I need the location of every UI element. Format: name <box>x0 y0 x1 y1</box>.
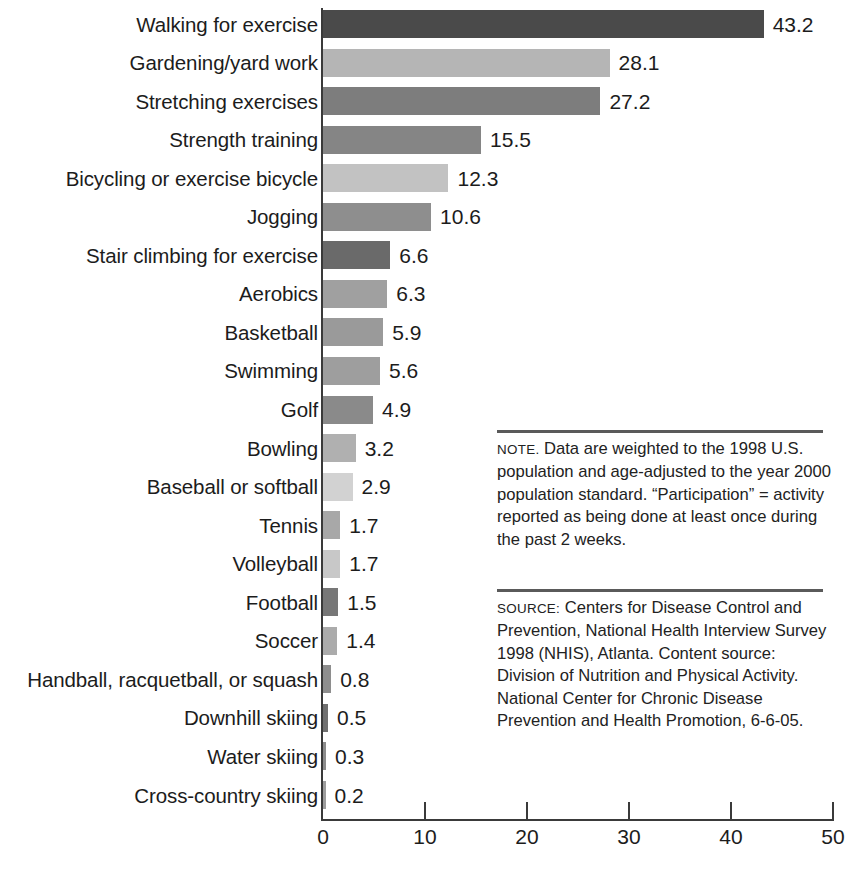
x-axis-tick-label: 10 <box>413 825 436 849</box>
category-label: Gardening/yard work <box>130 43 318 82</box>
bar <box>323 627 337 655</box>
category-label: Strength training <box>169 120 318 159</box>
x-axis-tick-label: 40 <box>719 825 742 849</box>
source-text: Centers for Disease Control and Preventi… <box>497 598 826 730</box>
bar <box>323 588 338 616</box>
x-axis-tick <box>628 802 630 820</box>
bar-value-label: 5.6 <box>389 351 418 390</box>
bar-row: Basketball5.9 <box>0 313 844 352</box>
category-label: Stretching exercises <box>135 82 318 121</box>
x-axis-tick-label: 0 <box>317 825 329 849</box>
bar-row: Stair climbing for exercise6.6 <box>0 236 844 275</box>
category-label: Downhill skiing <box>184 698 318 737</box>
bar-value-label: 28.1 <box>619 43 660 82</box>
category-label: Stair climbing for exercise <box>86 236 318 275</box>
category-label: Handball, racquetball, or squash <box>27 660 318 699</box>
source-top-rule <box>497 589 823 592</box>
bar-value-label: 2.9 <box>362 467 391 506</box>
bar-value-label: 5.9 <box>392 313 421 352</box>
bar-value-label: 15.5 <box>490 120 531 159</box>
category-label: Aerobics <box>239 274 318 313</box>
bar <box>323 742 326 770</box>
note-text: Data are weighted to the 1998 U.S. popul… <box>497 439 831 549</box>
x-axis-tick <box>424 802 426 820</box>
y-axis-line <box>321 8 323 820</box>
bar <box>323 318 383 346</box>
x-axis-tick <box>730 802 732 820</box>
bar <box>323 126 481 154</box>
bar-row: Jogging10.6 <box>0 197 844 236</box>
bar-row: Swimming5.6 <box>0 351 844 390</box>
bar <box>323 280 387 308</box>
bar-value-label: 0.5 <box>337 698 366 737</box>
category-label: Tennis <box>259 506 318 545</box>
bar-value-label: 6.3 <box>396 274 425 313</box>
note-block: NOTE. Data are weighted to the 1998 U.S.… <box>497 438 833 551</box>
bar-row: Bicycling or exercise bicycle12.3 <box>0 159 844 198</box>
bar-row: Walking for exercise43.2 <box>0 5 844 44</box>
bar <box>323 49 610 77</box>
bar-value-label: 1.7 <box>349 506 378 545</box>
bar <box>323 10 764 38</box>
bar-row: Gardening/yard work28.1 <box>0 43 844 82</box>
bar <box>323 203 431 231</box>
bar-value-label: 6.6 <box>399 236 428 275</box>
source-block: SOURCE: Centers for Disease Control and … <box>497 597 833 732</box>
bar <box>323 164 448 192</box>
category-label: Basketball <box>224 313 318 352</box>
bar-value-label: 1.5 <box>347 583 376 622</box>
category-label: Cross-country skiing <box>134 776 318 815</box>
bar <box>323 511 340 539</box>
category-label: Soccer <box>255 621 318 660</box>
bar <box>323 87 600 115</box>
bar <box>323 396 373 424</box>
bar-row: Aerobics6.3 <box>0 274 844 313</box>
category-label: Football <box>246 583 318 622</box>
bar-row: Strength training15.5 <box>0 120 844 159</box>
bar-value-label: 0.2 <box>335 776 364 815</box>
note-top-rule <box>497 430 823 433</box>
category-label: Jogging <box>247 197 318 236</box>
bar-value-label: 27.2 <box>609 82 650 121</box>
bar-value-label: 1.4 <box>346 621 375 660</box>
bar <box>323 665 331 693</box>
note-prefix: NOTE. <box>497 442 539 457</box>
bar-value-label: 4.9 <box>382 390 411 429</box>
bar-value-label: 43.2 <box>773 5 814 44</box>
bar-row: Cross-country skiing0.2 <box>0 776 844 815</box>
bar <box>323 781 326 809</box>
bar-value-label: 12.3 <box>457 159 498 198</box>
x-axis-tick <box>832 802 834 820</box>
bar <box>323 434 356 462</box>
category-label: Baseball or softball <box>147 467 318 506</box>
bar-row: Water skiing0.3 <box>0 737 844 776</box>
x-axis-tick-label: 30 <box>617 825 640 849</box>
category-label: Swimming <box>224 351 318 390</box>
category-label: Water skiing <box>207 737 318 776</box>
bar-value-label: 0.8 <box>340 660 369 699</box>
bar-value-label: 0.3 <box>335 737 364 776</box>
bar-row: Stretching exercises27.2 <box>0 82 844 121</box>
bar-value-label: 3.2 <box>365 429 394 468</box>
source-prefix: SOURCE: <box>497 601 560 616</box>
bar <box>323 473 353 501</box>
x-axis-tick-label: 50 <box>821 825 844 849</box>
category-label: Golf <box>281 390 318 429</box>
category-label: Walking for exercise <box>136 5 318 44</box>
x-axis-line <box>321 819 834 821</box>
bar <box>323 550 340 578</box>
category-label: Bowling <box>247 429 318 468</box>
x-axis-tick <box>526 802 528 820</box>
bar <box>323 357 380 385</box>
bar-row: Golf4.9 <box>0 390 844 429</box>
x-axis-tick-label: 20 <box>515 825 538 849</box>
category-label: Bicycling or exercise bicycle <box>66 159 318 198</box>
category-label: Volleyball <box>232 544 318 583</box>
bar-value-label: 1.7 <box>349 544 378 583</box>
bar <box>323 241 390 269</box>
bar-value-label: 10.6 <box>440 197 481 236</box>
bar <box>323 704 328 732</box>
